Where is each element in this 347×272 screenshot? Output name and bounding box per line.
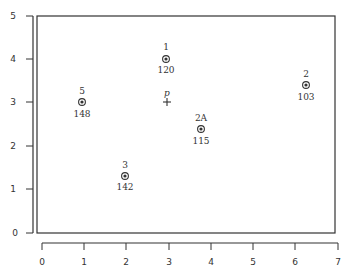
point-value-label: 103 <box>297 92 314 102</box>
point-value-label: 148 <box>73 109 90 119</box>
point-value-label: 120 <box>157 65 174 75</box>
data-point-5: 5 148 <box>73 86 90 119</box>
data-point-1: 1 120 <box>157 42 174 75</box>
x-tick-label: 4 <box>208 257 214 267</box>
y-tick-label: 2 <box>10 141 16 151</box>
data-point-2A: 2A 115 <box>192 113 209 146</box>
y-tick-label: 1 <box>10 184 16 194</box>
x-tick-label: 0 <box>39 257 45 267</box>
point-id-label: 2A <box>195 113 208 123</box>
y-tick-label: 5 <box>10 11 16 21</box>
y-axis: 5 4 3 2 1 0 <box>10 11 33 238</box>
y-tick-label: 0 <box>12 228 18 238</box>
point-id-label: 1 <box>163 42 169 52</box>
y-tick-label: 4 <box>10 54 16 64</box>
x-axis: 0 1 2 3 4 5 6 7 <box>39 243 341 267</box>
x-tick-label: 6 <box>292 257 298 267</box>
point-id-label: p <box>164 88 170 98</box>
data-point-3: 3 142 <box>116 160 133 192</box>
point-value-label: 115 <box>192 136 209 146</box>
point-id-label: 5 <box>79 86 85 96</box>
scatter-chart: 5 4 3 2 1 0 0 1 2 3 4 5 6 7 1 120 5 1 <box>0 0 347 272</box>
data-point-p: p <box>163 88 171 106</box>
point-value-label: 142 <box>116 182 133 192</box>
point-id-label: 3 <box>122 160 128 170</box>
y-tick-label: 3 <box>10 97 16 107</box>
x-tick-label: 1 <box>81 257 87 267</box>
plot-frame <box>37 16 335 233</box>
x-tick-label: 2 <box>123 257 129 267</box>
x-tick-label: 3 <box>166 257 172 267</box>
point-id-label: 2 <box>303 69 309 79</box>
x-tick-label: 7 <box>335 257 341 267</box>
data-point-2: 2 103 <box>297 69 314 102</box>
x-tick-label: 5 <box>250 257 256 267</box>
